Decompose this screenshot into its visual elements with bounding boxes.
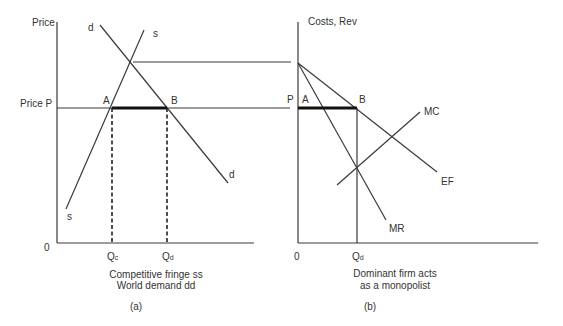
demand-label-top: d <box>88 22 94 33</box>
dominant-firm-diagram: Price Price P 0 d d s s A B Qc Qd Compet… <box>0 0 563 326</box>
panel-b-tag: (b) <box>364 301 376 312</box>
panel-a-caption-line1: Competitive fringe ss <box>109 269 202 280</box>
panel-b-point-b-label: B <box>359 94 366 105</box>
panel-b-y-axis-label: Costs, Rev <box>308 16 357 27</box>
qc-label: Qc <box>107 251 119 262</box>
panel-a-tag: (a) <box>130 301 142 312</box>
panel-b: Costs, Rev P 0 A B MC EF MR Qd Dominant … <box>287 16 538 312</box>
mr-label: MR <box>389 223 405 234</box>
panel-a-y-axis-label: Price <box>32 17 55 28</box>
supply-curve-ss <box>66 30 144 209</box>
panel-b-price-label: P <box>287 94 294 105</box>
excess-demand-curve-ef <box>298 63 437 172</box>
ef-label: EF <box>441 176 454 187</box>
panel-b-point-a-label: A <box>302 94 309 105</box>
panel-b-qd-label: Qd <box>352 251 364 262</box>
point-b-label: B <box>171 95 178 106</box>
supply-label-bottom: s <box>67 211 72 222</box>
marginal-revenue-curve <box>298 63 386 220</box>
panel-b-caption-line1: Dominant firm acts <box>353 268 436 279</box>
qd-label: Qd <box>162 251 174 262</box>
panel-b-origin-label: 0 <box>294 251 300 262</box>
supply-label-top: s <box>153 28 158 39</box>
panel-a-price-label: Price P <box>20 98 53 109</box>
panel-a-origin-label: 0 <box>44 242 50 253</box>
mc-label: MC <box>424 106 440 117</box>
demand-label-bottom: d <box>229 169 235 180</box>
panel-a-caption-line2: World demand dd <box>117 280 196 291</box>
panel-b-caption-line2: as a monopolist <box>360 280 430 291</box>
demand-curve-dd <box>100 25 228 183</box>
point-a-label: A <box>103 95 110 106</box>
panel-a: Price Price P 0 d d s s A B Qc Qd Compet… <box>20 17 291 312</box>
